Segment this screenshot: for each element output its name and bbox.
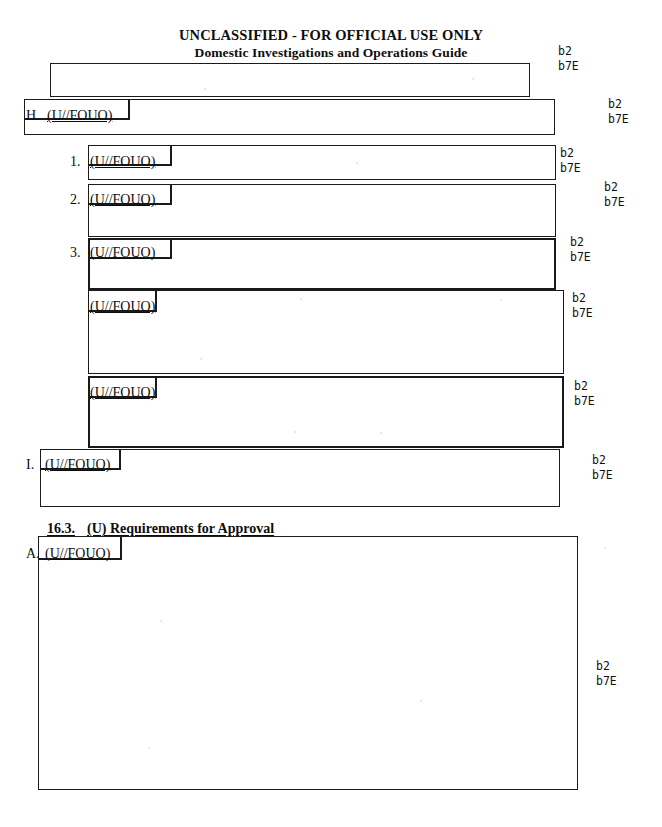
exemption-b2: b2 <box>560 146 581 161</box>
list-label-1: 1. <box>70 154 81 170</box>
scan-speckle <box>420 700 422 702</box>
exemption-b2: b2 <box>608 97 629 112</box>
section-heading: 16.3.(U) Requirements for Approval <box>47 521 274 537</box>
exemption-b7e: b7E <box>572 306 593 321</box>
exemption-code-2: b2 b7E <box>608 97 629 126</box>
exemption-b7e: b7E <box>592 468 613 483</box>
exemption-b2: b2 <box>604 180 625 195</box>
list-label-a: A. <box>26 546 40 562</box>
redaction-notch-left-a <box>120 537 122 559</box>
redaction-block-a <box>38 536 578 790</box>
redaction-block-top <box>50 63 530 97</box>
exemption-code-3: b2 b7E <box>560 146 581 175</box>
marking-fouo-para-4: (U//FOUO) <box>90 299 155 315</box>
scan-speckle <box>300 298 302 300</box>
redaction-block-para-5 <box>88 376 564 448</box>
document-page: UNCLASSIFIED - FOR OFFICIAL USE ONLY Dom… <box>0 0 662 827</box>
exemption-b7e: b7E <box>604 195 625 210</box>
exemption-b7e: b7E <box>560 161 581 176</box>
redaction-notch-left-2 <box>170 185 172 204</box>
exemption-code-7: b2 b7E <box>574 379 595 408</box>
marking-fouo-2-text: (U//FOUO) <box>90 192 155 207</box>
list-label-2: 2. <box>70 192 81 208</box>
scan-speckle <box>200 358 202 360</box>
exemption-code-8: b2 b7E <box>592 453 613 482</box>
marking-fouo-1-text: (U//FOUO) <box>90 154 155 169</box>
exemption-b7e: b7E <box>596 674 617 689</box>
list-label-3: 3. <box>70 245 81 261</box>
exemption-code-9: b2 b7E <box>596 659 617 688</box>
marking-fouo-i-text: (U//FOUO) <box>45 457 110 472</box>
exemption-b7e: b7E <box>574 394 595 409</box>
marking-fouo-2: (U//FOUO) <box>90 192 155 208</box>
scan-speckle <box>148 747 150 749</box>
exemption-b2: b2 <box>592 453 613 468</box>
exemption-b2: b2 <box>596 659 617 674</box>
marking-fouo-h-text: (U//FOUO) <box>47 108 112 123</box>
redaction-notch-left-3 <box>170 240 172 258</box>
section-title: (U) Requirements for Approval <box>87 521 274 536</box>
exemption-b2: b2 <box>572 291 593 306</box>
marking-fouo-a-text: (U//FOUO) <box>45 546 110 561</box>
scan-speckle <box>380 432 382 434</box>
marking-fouo-h: (U//FOUO) <box>47 108 112 124</box>
exemption-b7e: b7E <box>608 112 629 127</box>
marking-fouo-1: (U//FOUO) <box>90 154 155 170</box>
scan-speckle <box>500 299 502 301</box>
redaction-block-para-4 <box>88 290 564 374</box>
exemption-code-5: b2 b7E <box>570 235 591 264</box>
exemption-b2: b2 <box>574 379 595 394</box>
exemption-code-6: b2 b7E <box>572 291 593 320</box>
redaction-notch-left-1 <box>170 146 172 165</box>
scan-speckle <box>472 78 474 80</box>
scan-speckle <box>294 431 296 433</box>
section-number: 16.3. <box>47 521 75 536</box>
marking-fouo-para-4-text: (U//FOUO) <box>90 299 155 314</box>
marking-fouo-3: (U//FOUO) <box>90 245 155 261</box>
marking-fouo-3-text: (U//FOUO) <box>90 245 155 260</box>
marking-fouo-a: (U//FOUO) <box>45 546 110 562</box>
exemption-b2: b2 <box>558 44 579 59</box>
scan-speckle <box>204 88 206 90</box>
classification-banner: UNCLASSIFIED - FOR OFFICIAL USE ONLY <box>0 27 662 44</box>
exemption-b7e: b7E <box>570 250 591 265</box>
marking-fouo-i: (U//FOUO) <box>45 457 110 473</box>
marking-fouo-para-5-text: (U//FOUO) <box>90 385 155 400</box>
redaction-notch-left-i <box>119 450 121 469</box>
exemption-code-4: b2 b7E <box>604 180 625 209</box>
redaction-notch-left-h <box>128 100 130 119</box>
exemption-b2: b2 <box>570 235 591 250</box>
scan-speckle <box>604 547 606 549</box>
exemption-b7e: b7E <box>558 59 579 74</box>
scan-speckle <box>160 620 162 622</box>
list-label-h: H. <box>26 108 40 124</box>
list-label-i: I. <box>26 457 34 473</box>
exemption-code-1: b2 b7E <box>558 44 579 73</box>
scan-speckle <box>356 162 358 164</box>
marking-fouo-para-5: (U//FOUO) <box>90 385 155 401</box>
